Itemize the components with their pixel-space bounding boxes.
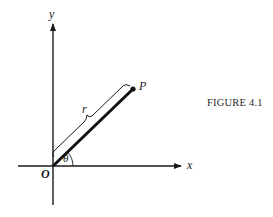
- y-axis-label: y: [49, 8, 54, 20]
- origin-label: O: [41, 168, 50, 180]
- point-p-dot: [130, 86, 135, 91]
- diagram-canvas: [0, 0, 273, 217]
- radius-brace: [53, 85, 131, 158]
- angle-theta-label: θ: [63, 152, 68, 164]
- x-axis-label: x: [187, 159, 192, 171]
- radius-label: r: [82, 103, 87, 115]
- point-p-label: P: [139, 80, 146, 92]
- figure-caption: FIGURE 4.1: [207, 97, 263, 108]
- polar-coordinates-figure: y x O P r θ FIGURE 4.1: [0, 0, 273, 217]
